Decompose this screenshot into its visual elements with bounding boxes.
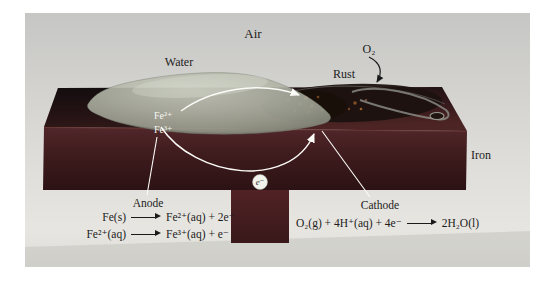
air-label: Air [244, 27, 261, 40]
anode-reaction-1-rhs: Fe²⁺(aq) + 2e⁻ [166, 210, 235, 224]
reaction-arrow [407, 218, 437, 229]
anode-reactions: Fe(s) Fe²⁺(aq) + 2e⁻ Fe²⁺(aq) Fe³⁺(aq) +… [68, 210, 235, 241]
cathode-reaction-lhs: O₂(g) + 4H⁺(aq) + 4e⁻ [296, 216, 402, 230]
anode-reaction-2-lhs: Fe²⁺(aq) [68, 227, 126, 241]
fe3-ion-label: Fe³⁺ [154, 125, 172, 135]
cathode-reaction-rhs: 2H₂O(l) [442, 217, 479, 229]
corrosion-figure: Air O₂ Water Rust Iron Anode Cathode Fe²… [0, 0, 555, 281]
cathode-label: Cathode [361, 200, 399, 212]
electron-label: e⁻ [256, 178, 265, 187]
reaction-arrow [131, 212, 161, 223]
o2-label: O₂ [363, 43, 376, 55]
iron-label: Iron [471, 149, 491, 161]
pedestal [231, 190, 289, 243]
reaction-arrow [131, 229, 161, 240]
rust-label: Rust [333, 68, 355, 80]
water-label: Water [165, 56, 193, 68]
fe2-ion-label: Fe²⁺ [154, 111, 172, 121]
anode-reaction-2-rhs: Fe³⁺(aq) + e⁻ [166, 227, 235, 241]
cathode-reaction: O₂(g) + 4H⁺(aq) + 4e⁻ 2H₂O(l) [296, 216, 479, 230]
anode-reaction-1-lhs: Fe(s) [68, 211, 126, 223]
anode-label: Anode [133, 198, 164, 210]
